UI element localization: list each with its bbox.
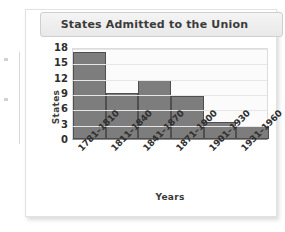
gridline — [73, 95, 267, 96]
gridline — [73, 64, 267, 65]
chart-screenshot: States Admitted to the Union States 1815… — [0, 0, 285, 232]
y-tick-label: 3 — [61, 120, 68, 130]
y-tick-label: 9 — [61, 89, 68, 99]
y-tick-label: 18 — [54, 43, 68, 53]
y-tick-label: 15 — [54, 58, 68, 68]
gridline — [73, 80, 267, 81]
y-tick-label: 12 — [54, 74, 68, 84]
y-axis-tick-labels: 1815129630 — [42, 44, 68, 216]
y-tick-label: 6 — [61, 104, 68, 114]
gridline — [73, 110, 267, 111]
chart-title-banner: States Admitted to the Union — [40, 12, 283, 37]
x-axis-title: Years — [72, 192, 268, 202]
scan-speck-upper — [4, 58, 8, 61]
y-tick-label: 0 — [61, 135, 68, 145]
chart-area: States 1815129630 1781–18101811–18401841… — [28, 44, 274, 216]
chart-title: States Admitted to the Union — [61, 18, 249, 31]
gridline — [73, 49, 267, 50]
scan-speck-lower — [4, 98, 8, 101]
page-edge-artifact — [19, 52, 20, 144]
